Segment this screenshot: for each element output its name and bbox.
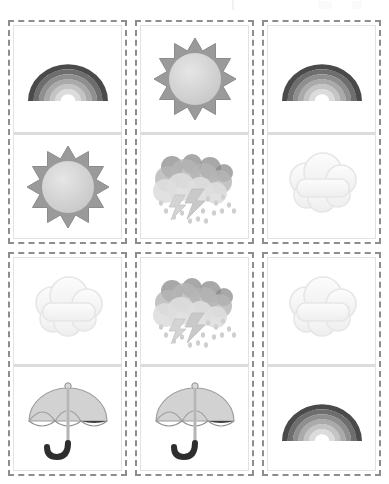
weather-card[interactable] (135, 252, 254, 476)
sun-icon (148, 33, 242, 125)
weather-card[interactable] (8, 252, 127, 476)
weather-picture-cell[interactable] (267, 364, 376, 471)
umbrella-icon (21, 373, 115, 465)
rainbow-icon (275, 373, 369, 465)
weather-picture-cell[interactable] (13, 25, 122, 132)
weather-card[interactable] (262, 20, 381, 244)
rainbow-icon (21, 33, 115, 125)
weather-picture-cell[interactable] (13, 132, 122, 239)
weather-picture-cell[interactable] (140, 257, 249, 364)
umbrella-icon (148, 373, 242, 465)
cloud-icon (275, 265, 369, 357)
top-strip-smudge (318, 1, 332, 9)
weather-card[interactable] (262, 252, 381, 476)
cloud-icon (275, 141, 369, 233)
top-strip-tick (232, 0, 234, 10)
weather-picture-cell[interactable] (267, 25, 376, 132)
top-strip-smudge (352, 1, 362, 9)
weather-picture-cell[interactable] (267, 257, 376, 364)
sun-icon (21, 141, 115, 233)
weather-card-grid (0, 14, 389, 484)
top-cutoff-strip (0, 0, 389, 14)
weather-picture-cell[interactable] (13, 257, 122, 364)
weather-picture-cell[interactable] (140, 25, 249, 132)
cloud-icon (21, 265, 115, 357)
weather-picture-cell[interactable] (13, 364, 122, 471)
rainbow-icon (275, 33, 369, 125)
weather-picture-cell[interactable] (267, 132, 376, 239)
weather-picture-cell[interactable] (140, 132, 249, 239)
weather-card[interactable] (135, 20, 254, 244)
storm-icon (148, 265, 242, 357)
weather-picture-cell[interactable] (140, 364, 249, 471)
storm-icon (148, 141, 242, 233)
weather-card[interactable] (8, 20, 127, 244)
